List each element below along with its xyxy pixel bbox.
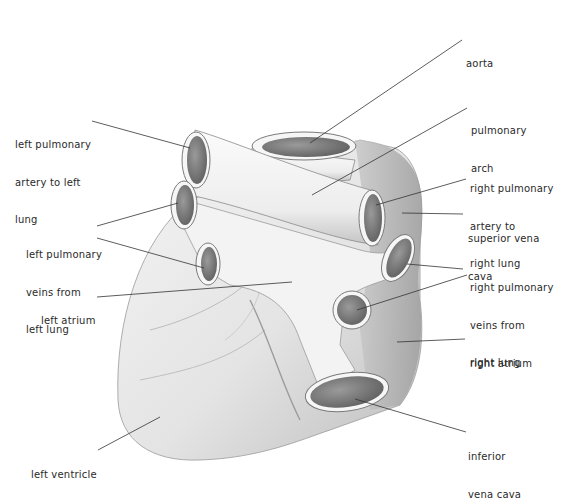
label-left-ventricle: left ventricle [31,444,97,494]
label-aorta: aorta [466,33,493,83]
label-left-pulmonary-artery: left pulmonary artery to left lung [15,114,91,239]
label-inferior-vena-cava: inferior vena cava [468,426,521,502]
label-right-atrium: right atrium [470,333,532,383]
label-left-atrium: left atrium [41,290,96,340]
